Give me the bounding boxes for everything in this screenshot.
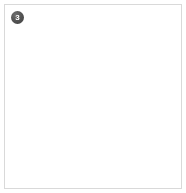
image-stage	[5, 5, 181, 188]
figure-panel: 3	[0, 0, 186, 193]
panel-index-badge: 3	[11, 11, 24, 24]
sphere-image	[18, 20, 170, 172]
panel-index-badge-label: 3	[15, 14, 19, 22]
sphere-body	[18, 20, 170, 172]
